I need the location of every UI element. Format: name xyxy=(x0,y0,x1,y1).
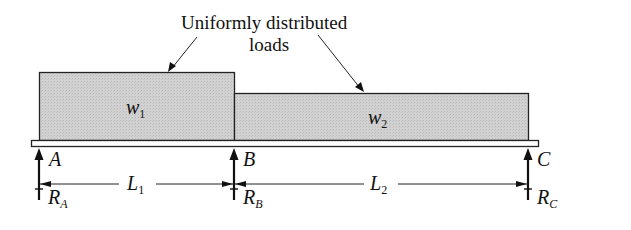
reaction-label-ra: RA xyxy=(48,186,68,209)
support-label-c: C xyxy=(537,148,550,171)
reaction-label-rb: RB xyxy=(243,186,263,209)
reaction-symbol-rc: R xyxy=(537,186,549,208)
reaction-symbol-rb: R xyxy=(243,186,255,208)
annotation-line-2: loads xyxy=(249,34,289,56)
support-label-b: B xyxy=(243,148,255,171)
reaction-arrow-c xyxy=(524,148,533,200)
load-label-w2: w2 xyxy=(368,106,387,129)
reaction-symbol-ra: R xyxy=(48,186,60,208)
load-symbol-w2: w xyxy=(368,106,381,128)
reaction-label-rc: RC xyxy=(537,186,557,209)
support-label-a: A xyxy=(49,148,61,171)
load-label-w1: w1 xyxy=(126,96,145,119)
span-label-l1: L1 xyxy=(127,172,144,195)
span-symbol-l2: L xyxy=(370,172,381,194)
load-subscript-w2: 2 xyxy=(381,117,387,131)
annotation-line-1: Uniformly distributed xyxy=(181,12,347,34)
reaction-arrow-b xyxy=(230,148,239,200)
reaction-arrow-a xyxy=(35,148,44,200)
load-subscript-w1: 1 xyxy=(139,107,145,121)
span-label-l2: L2 xyxy=(370,172,387,195)
span-subscript-l1: 1 xyxy=(138,183,144,197)
reaction-subscript-rb: B xyxy=(255,197,262,211)
span-subscript-l2: 2 xyxy=(381,183,387,197)
reaction-subscript-rc: C xyxy=(549,197,557,211)
beam xyxy=(32,141,539,147)
reaction-subscript-ra: A xyxy=(60,197,67,211)
span-symbol-l1: L xyxy=(127,172,138,194)
load-symbol-w1: w xyxy=(126,96,139,118)
